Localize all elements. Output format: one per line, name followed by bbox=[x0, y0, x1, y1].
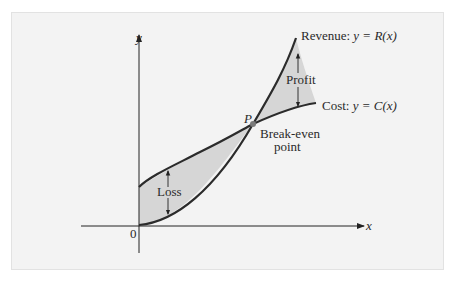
origin-label: 0 bbox=[130, 226, 137, 241]
break-even-label-line2: point bbox=[274, 139, 301, 154]
y-axis-label: y bbox=[134, 30, 142, 45]
loss-label: Loss bbox=[157, 184, 182, 199]
profit-label: Profit bbox=[286, 72, 316, 87]
cost-label: Cost: y = C(x) bbox=[322, 98, 397, 113]
revenue-label: Revenue: y = R(x) bbox=[301, 28, 397, 43]
point-p-label: P bbox=[243, 111, 252, 126]
x-axis-label: x bbox=[365, 218, 372, 233]
break-even-diagram: y x 0 Revenue: y = R(x) Cost: y = C(x) P… bbox=[0, 0, 454, 282]
